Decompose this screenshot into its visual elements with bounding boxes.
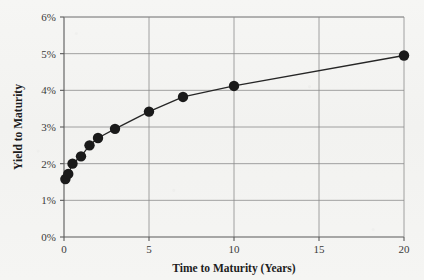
x-tick-label: 0	[61, 243, 67, 255]
yield-curve-figure: 0%1%2%3%4%5%6% 05101520 Time to Maturity…	[0, 0, 424, 280]
data-point-marker	[110, 124, 120, 134]
y-tick-label: 0%	[41, 231, 56, 243]
y-tick-label: 6%	[41, 11, 56, 23]
data-point-marker	[229, 81, 239, 91]
y-axis-title: Yield to Maturity	[12, 84, 25, 170]
x-axis-title: Time to Maturity (Years)	[172, 262, 296, 275]
y-tick-label: 5%	[41, 48, 56, 60]
data-point-marker	[63, 169, 73, 179]
data-point-marker	[399, 50, 409, 60]
chart-canvas: 0%1%2%3%4%5%6% 05101520 Time to Maturity…	[0, 0, 424, 280]
data-point-marker	[67, 158, 77, 168]
yield-curve-line	[65, 56, 404, 180]
y-tick-label: 1%	[41, 194, 56, 206]
data-point-marker	[93, 133, 103, 143]
y-axis-ticks	[60, 17, 64, 237]
x-axis-tick-labels: 05101520	[61, 243, 410, 255]
data-point-marker	[178, 92, 188, 102]
x-tick-label: 15	[314, 243, 326, 255]
yield-curve-markers	[60, 50, 409, 184]
x-tick-label: 20	[399, 243, 411, 255]
x-tick-label: 5	[146, 243, 152, 255]
y-tick-label: 4%	[41, 84, 56, 96]
x-tick-label: 10	[229, 243, 241, 255]
x-axis-ticks	[64, 237, 404, 241]
y-tick-label: 2%	[41, 158, 56, 170]
data-point-marker	[144, 106, 154, 116]
y-axis-tick-labels: 0%1%2%3%4%5%6%	[41, 11, 56, 243]
data-point-marker	[76, 151, 86, 161]
y-tick-label: 3%	[41, 121, 56, 133]
data-point-marker	[84, 140, 94, 150]
